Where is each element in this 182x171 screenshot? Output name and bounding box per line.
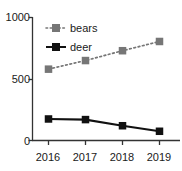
data-series-layer [45, 38, 164, 135]
series-line-deer [49, 119, 160, 131]
data-point-bears-2018 [119, 47, 127, 55]
data-point-deer-2018 [119, 122, 127, 129]
chart-canvas [0, 0, 182, 171]
line-chart: 1000 500 0 2016 2017 2018 2019 bears dee… [0, 0, 182, 171]
legend-swatch-bears [46, 24, 66, 32]
data-point-deer-2016 [45, 115, 53, 123]
data-point-bears-2016 [45, 65, 53, 73]
data-point-bears-2019 [156, 38, 164, 46]
series-bears [45, 38, 164, 73]
data-point-deer-2019 [156, 128, 164, 135]
series-line-bears [49, 41, 160, 69]
legend-swatch-deer [46, 43, 66, 51]
data-point-deer-2017 [82, 116, 90, 124]
data-point-bears-2017 [82, 57, 90, 65]
series-deer [45, 115, 164, 135]
x-axis-ticks [49, 141, 160, 145]
